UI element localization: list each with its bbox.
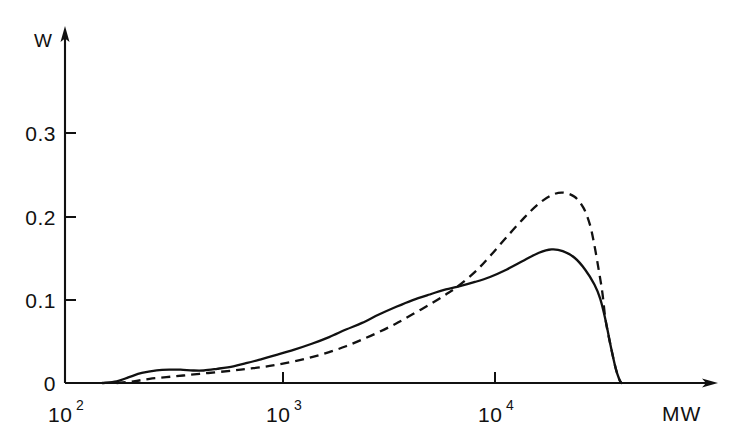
y-axis-title: W <box>34 30 52 51</box>
y-tick-label-2: 0.2 <box>25 206 56 229</box>
x-tick-label-1e2-base: 10 <box>48 403 72 426</box>
y-tick-label-1: 0.1 <box>25 289 56 312</box>
x-tick-label-1e3: 10 3 <box>266 397 302 426</box>
x-tick-label-1e2-exp: 2 <box>76 397 84 413</box>
x-tick-marks <box>283 372 495 383</box>
x-tick-label-1e4-base: 10 <box>478 403 502 426</box>
x-tick-label-1e4: 10 4 <box>478 397 514 426</box>
x-tick-label-1e4-exp: 4 <box>506 397 514 413</box>
series-dashed-curve <box>117 193 622 383</box>
y-tick-label-3: 0.3 <box>25 122 56 145</box>
y-tick-label-0: 0 <box>44 372 56 395</box>
y-tick-marks <box>65 133 76 300</box>
x-tick-label-1e3-base: 10 <box>266 403 290 426</box>
x-axis-title: MW <box>662 402 701 425</box>
series-solid-curve <box>102 249 621 383</box>
x-tick-label-1e3-exp: 3 <box>294 397 302 413</box>
chart-figure: 0.3 0.2 0.1 0 10 2 10 3 10 4 W MW <box>0 0 741 435</box>
y-axis <box>61 26 70 383</box>
x-tick-label-1e2: 10 2 <box>48 397 84 426</box>
chart-svg: 0.3 0.2 0.1 0 10 2 10 3 10 4 W MW <box>0 0 741 435</box>
